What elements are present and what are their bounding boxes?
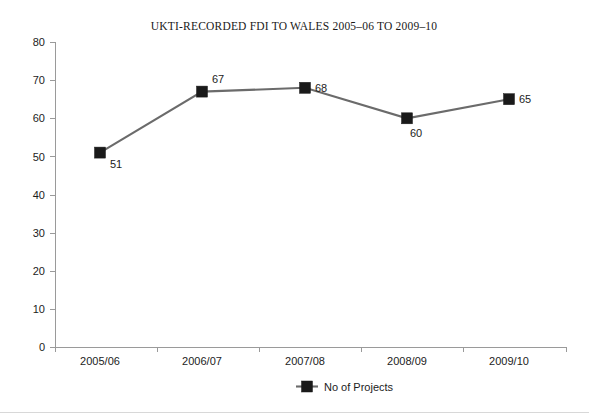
x-tick-label: 2008/09 (387, 355, 427, 367)
data-point-label: 68 (315, 82, 327, 94)
y-tick-label: 80 (33, 36, 45, 48)
legend-entry-label: No of Projects (324, 381, 394, 393)
y-tick-label: 40 (33, 189, 45, 201)
y-tick-label: 70 (33, 74, 45, 86)
x-axis-tick-labels: 2005/06 2006/07 2007/08 2008/09 2009/10 (80, 355, 529, 367)
x-tick-label: 2009/10 (489, 355, 529, 367)
line-chart-svg: UKTI-RECORDED FDI TO WALES 2005–06 TO 20… (0, 0, 589, 413)
y-axis-tick-labels: 0 10 20 30 40 50 60 70 80 (33, 36, 45, 353)
data-point-label: 60 (410, 127, 422, 139)
data-point-label: 67 (212, 73, 224, 85)
y-axis-ticks (50, 43, 55, 348)
data-point-marker[interactable] (95, 147, 106, 158)
y-tick-label: 0 (39, 341, 45, 353)
chart-figure: UKTI-RECORDED FDI TO WALES 2005–06 TO 20… (0, 0, 589, 413)
chart-legend: No of Projects (296, 381, 394, 393)
series-markers (95, 82, 515, 158)
data-point-marker[interactable] (504, 94, 515, 105)
data-point-marker[interactable] (197, 86, 208, 97)
y-tick-label: 60 (33, 112, 45, 124)
y-tick-label: 10 (33, 303, 45, 315)
x-tick-label: 2007/08 (285, 355, 325, 367)
series-line-no-of-projects (100, 88, 509, 153)
y-tick-label: 20 (33, 265, 45, 277)
x-tick-label: 2006/07 (182, 355, 222, 367)
y-tick-label: 50 (33, 151, 45, 163)
y-tick-label: 30 (33, 227, 45, 239)
data-point-marker[interactable] (402, 113, 413, 124)
data-point-label: 51 (110, 158, 122, 170)
data-point-labels: 51 67 68 60 65 (110, 73, 531, 170)
x-tick-label: 2005/06 (80, 355, 120, 367)
data-point-label: 65 (519, 93, 531, 105)
chart-title: UKTI-RECORDED FDI TO WALES 2005–06 TO 20… (151, 20, 438, 32)
data-point-marker[interactable] (300, 82, 311, 93)
legend-square-marker (302, 381, 313, 392)
